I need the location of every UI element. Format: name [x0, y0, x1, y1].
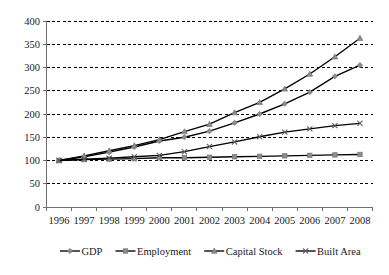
data-point-employment-2003 [232, 155, 236, 159]
x-axis-label-2003: 2003 [224, 215, 245, 226]
legend-label-1: Employment [137, 246, 191, 257]
data-point-employment-2007 [333, 153, 337, 157]
y-axis-label-100: 100 [24, 155, 40, 166]
x-axis-label-2001: 2001 [174, 215, 195, 226]
y-axis-label-350: 350 [24, 39, 40, 50]
x-axis-label-2006: 2006 [299, 215, 320, 226]
x-axis-label-2004: 2004 [249, 215, 271, 226]
line-chart-figure: 050100150200250300350400 199619971998199… [0, 0, 389, 275]
y-axis-label-400: 400 [24, 16, 40, 27]
data-point-employment-2001 [182, 156, 186, 160]
legend-label-0: GDP [81, 246, 102, 257]
x-axis-label-2000: 2000 [149, 215, 170, 226]
y-axis-label-50: 50 [30, 178, 41, 189]
data-point-employment-2002 [207, 155, 211, 159]
x-axis-label-1996: 1996 [49, 215, 70, 226]
x-axis-label-1997: 1997 [74, 215, 95, 226]
y-axis-label-0: 0 [35, 202, 40, 213]
legend-label-3: Built Area [317, 246, 361, 257]
x-axis-label-2005: 2005 [274, 215, 295, 226]
y-axis-label-200: 200 [24, 109, 40, 120]
x-axis-label-2002: 2002 [199, 215, 220, 226]
data-point-employment-2005 [283, 154, 287, 158]
data-point-employment-2004 [257, 154, 261, 158]
x-axis-label-1998: 1998 [99, 215, 120, 226]
y-axis-label-300: 300 [24, 62, 40, 73]
x-axis-label-1999: 1999 [124, 215, 145, 226]
x-axis-label-2008: 2008 [349, 215, 370, 226]
legend-marker-icon-square [123, 249, 127, 253]
y-axis-label-150: 150 [24, 132, 40, 143]
data-point-employment-2006 [308, 153, 312, 157]
legend-label-2: Capital Stock [226, 246, 284, 257]
chart-canvas: 050100150200250300350400 199619971998199… [0, 0, 389, 275]
data-point-employment-2008 [358, 152, 362, 156]
x-axis-label-2007: 2007 [324, 215, 345, 226]
y-axis-label-250: 250 [24, 85, 40, 96]
